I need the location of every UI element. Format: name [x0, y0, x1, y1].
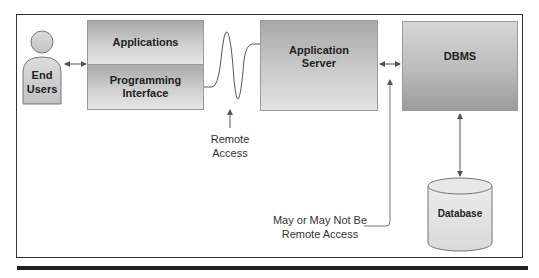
applications-box: Applications	[87, 20, 204, 65]
may-or-may-not-line2: Remote Access	[270, 227, 370, 241]
application-server-line1: Application	[289, 44, 349, 57]
application-server-box: Application Server	[260, 20, 378, 111]
application-server-line2: Server	[289, 57, 349, 70]
may-or-may-not-annotation: May or May Not Be Remote Access	[270, 213, 370, 241]
end-users-line1: End	[23, 68, 61, 82]
applications-label: Applications	[112, 36, 178, 49]
end-users-line2: Users	[23, 82, 61, 96]
programming-interface-line1: Programming	[110, 74, 182, 87]
end-users-label: End Users	[23, 68, 61, 96]
dbms-label: DBMS	[444, 50, 476, 63]
remote-access-annotation: Remote Access	[205, 132, 255, 160]
remote-access-line2: Access	[205, 146, 255, 160]
programming-interface-box: Programming Interface	[87, 64, 204, 110]
remote-access-line1: Remote	[205, 132, 255, 146]
dbms-box: DBMS	[402, 21, 518, 111]
programming-interface-line2: Interface	[110, 87, 182, 100]
remote-wave-link	[204, 32, 260, 99]
database-label: Database	[428, 208, 492, 219]
may-or-may-not-line1: May or May Not Be	[270, 213, 370, 227]
